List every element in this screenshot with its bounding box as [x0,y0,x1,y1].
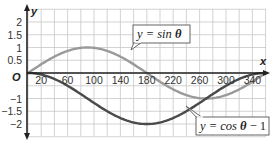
y-tick-label: 1 [16,42,22,54]
x-axis-label: x [259,55,267,67]
origin-label: O [12,71,21,83]
y-tick-label: 0.5 [7,54,22,66]
cos-equation-callout: y = cos θ − 1 [186,106,269,135]
sin-equation-callout: y = sin θ [131,25,190,50]
y-tick-label: 2 [16,16,22,28]
x-tick-label: 300 [217,74,235,86]
x-tick-label: 260 [191,74,209,86]
x-tick-label: 20 [35,74,47,86]
y-axis-arrow-up-icon [24,4,30,11]
x-tick-label: 180 [138,74,156,86]
x-tick-label: 60 [62,74,74,86]
cos-equation-label: y = cos θ − 1 [198,119,266,133]
x-tick-label: 340 [244,74,262,86]
x-tick-label: 140 [112,74,130,86]
x-tick-label: 100 [85,74,103,86]
y-tick-label: −1.5 [1,105,22,117]
x-axis-arrow-icon [263,70,270,76]
y-tick-label: −2 [10,118,22,130]
sin-equation-label: y = sin θ [135,27,182,41]
y-axis-label: y [30,5,38,17]
x-tick-label: 220 [164,74,182,86]
chart: 206010014018022026030034021.510.5−1−1.5−… [0,0,271,145]
y-tick-label: 1.5 [7,29,22,41]
y-tick-label: −1 [10,93,22,105]
